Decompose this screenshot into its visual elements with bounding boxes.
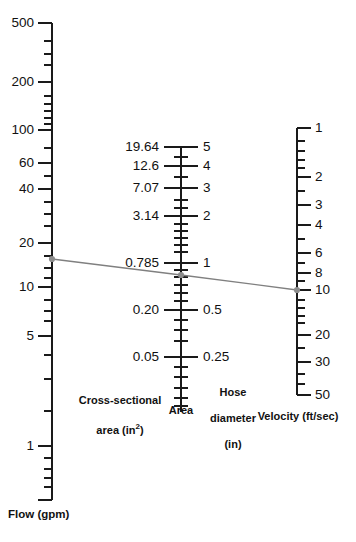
- index-marker-flow: [49, 256, 55, 262]
- flow-axis-tick-label: 40: [19, 181, 34, 196]
- nomograph-canvas: 500200100604020105119.64512.647.0733.142…: [0, 0, 356, 542]
- area-axis-left-tick-label: 3.14: [133, 208, 160, 223]
- velocity-axis-tick-label: 20: [315, 327, 330, 342]
- velocity-axis-tick-label: 2: [315, 169, 323, 184]
- flow-axis: 5002001006040201051: [11, 15, 52, 500]
- velocity-axis-tick-label: 30: [315, 354, 330, 369]
- area-axis-right-tick-label: 3: [203, 180, 211, 195]
- velocity-axis-tick-label: 6: [315, 245, 323, 260]
- area-axis-right-tick-label: 0.5: [203, 302, 222, 317]
- area-right-line3: (in): [224, 438, 241, 450]
- velocity-axis-caption: Velocity (ft/sec): [246, 410, 350, 423]
- area-axis-right-tick-label: 5: [203, 139, 211, 154]
- flow-axis-tick-label: 200: [11, 74, 34, 89]
- index-marker-velocity: [294, 287, 300, 293]
- flow-axis-tick-label: 1: [26, 438, 34, 453]
- area-left-line1: Cross-sectional: [79, 394, 162, 406]
- area-axis-left-tick-label: 12.6: [133, 158, 159, 173]
- velocity-axis-tick-label: 50: [315, 387, 330, 402]
- area-axis-left-tick-label: 0.05: [133, 349, 159, 364]
- velocity-axis-tick-label: 4: [315, 217, 323, 232]
- velocity-axis-tick-label: 3: [315, 197, 323, 212]
- velocity-axis: 12346810203050: [297, 120, 330, 402]
- area-axis-left-tick-label: 7.07: [133, 180, 159, 195]
- flow-axis-tick-label: 500: [11, 15, 34, 30]
- area-axis-left-tick-label: 0.20: [133, 302, 159, 317]
- area-axis-right-tick-label: 0.25: [203, 349, 229, 364]
- flow-axis-tick-label: 5: [26, 328, 34, 343]
- flow-axis-caption: Flow (gpm): [8, 508, 69, 521]
- area-axis: 19.64512.647.0733.1420.78510.200.50.050.…: [125, 139, 229, 412]
- flow-axis-tick-label: 100: [11, 122, 34, 137]
- area-axis-right-tick-label: 2: [203, 208, 211, 223]
- flow-axis-tick-label: 20: [19, 235, 34, 250]
- squared-superscript: 2: [136, 422, 140, 431]
- flow-axis-tick-label: 10: [19, 279, 34, 294]
- area-axis-left-tick-label: 0.785: [125, 255, 159, 270]
- index-marker-area: [178, 272, 184, 278]
- area-axis-left-tick-label: 19.64: [125, 139, 159, 154]
- nomograph-figure: 500200100604020105119.64512.647.0733.142…: [0, 0, 356, 542]
- velocity-axis-tick-label: 1: [315, 120, 323, 135]
- index-line-group: [49, 256, 300, 293]
- flow-axis-tick-label: 60: [19, 155, 34, 170]
- velocity-axis-tick-label: 8: [315, 265, 323, 280]
- area-right-line1: Hose: [220, 386, 247, 398]
- area-left-line2: area (in2): [96, 424, 143, 436]
- area-axis-right-tick-label: 4: [203, 158, 211, 173]
- area-axis-right-tick-label: 1: [203, 255, 211, 270]
- velocity-axis-tick-label: 10: [315, 282, 330, 297]
- area-axis-bottom-caption: Area: [150, 404, 212, 417]
